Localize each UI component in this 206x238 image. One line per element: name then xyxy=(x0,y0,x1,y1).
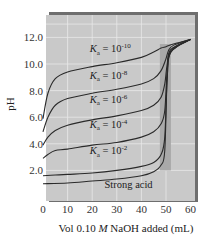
titration-chart: Ka = 10-10Ka = 10-8Ka = 10-6Ka = 10-4Ka … xyxy=(0,0,206,238)
y-tick-label: 2.0 xyxy=(29,164,43,176)
x-tick-label: 30 xyxy=(111,203,123,215)
curve-label-5: Strong acid xyxy=(105,179,154,190)
x-tick-label: 10 xyxy=(62,203,74,215)
y-axis-ticks: 2.04.06.08.010.012.0 xyxy=(24,31,44,176)
y-tick-label: 8.0 xyxy=(29,85,43,97)
x-tick-label: 40 xyxy=(136,203,148,215)
y-tick-label: 10.0 xyxy=(24,58,44,70)
x-axis-ticks: 0102030405060 xyxy=(40,203,196,215)
y-axis-label: pH xyxy=(4,97,16,111)
x-tick-label: 20 xyxy=(87,203,99,215)
y-tick-label: 6.0 xyxy=(29,111,43,123)
x-tick-label: 60 xyxy=(185,203,197,215)
x-tick-label: 0 xyxy=(40,203,46,215)
x-axis-label: Vol 0.10 M NaOH added (mL) xyxy=(59,222,194,235)
y-tick-label: 12.0 xyxy=(24,31,44,43)
y-tick-label: 4.0 xyxy=(29,138,43,150)
x-tick-label: 50 xyxy=(161,203,173,215)
